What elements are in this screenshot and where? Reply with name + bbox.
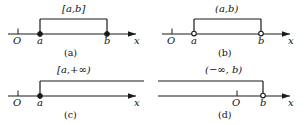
left-point-label: a <box>37 97 43 108</box>
panel-caption: (a) <box>64 47 77 58</box>
origin-label: O <box>167 35 175 46</box>
panel-a-closed-interval: [a,b] O a b x (a) <box>0 0 154 62</box>
panel-caption: (c) <box>64 109 77 120</box>
axis-variable-label: x <box>288 35 294 46</box>
right-point-label: b <box>258 35 264 46</box>
panel-c-right-infinite-interval: [a,+∞) O a x (c) <box>0 62 154 124</box>
left-point-label: a <box>37 35 43 46</box>
right-point-label: b <box>260 97 266 108</box>
origin-label: O <box>13 35 21 46</box>
interval-notation-label: (−∞, b) <box>205 64 242 75</box>
axis-variable-label: x <box>134 35 140 46</box>
interval-notation-label: (a,b) <box>215 3 238 14</box>
origin-label: O <box>13 97 21 108</box>
interval-notation-label: [a,+∞) <box>57 64 91 75</box>
right-point-label: b <box>104 35 110 46</box>
axis-variable-label: x <box>134 97 140 108</box>
panel-caption: (d) <box>218 109 232 120</box>
left-point-label: a <box>191 35 197 46</box>
panel-b-open-interval: (a,b) O a b x (b) <box>154 0 308 62</box>
axis-variable-label: x <box>288 97 294 108</box>
panel-d-left-infinite-interval: (−∞, b) O b x (d) <box>154 62 308 124</box>
interval-figure: [a,b] O a b x (a) (a,b) O a b x (b) <box>0 0 308 125</box>
origin-label: O <box>232 97 240 108</box>
interval-notation-label: [a,b] <box>62 3 85 14</box>
panel-caption: (b) <box>218 47 232 58</box>
